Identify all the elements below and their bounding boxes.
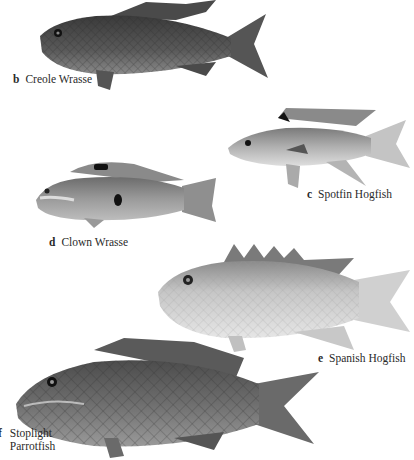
caption-letter: d (49, 236, 55, 248)
caption-name-line2: Parrotfish (10, 440, 55, 452)
caption-creole-wrasse: bCreole Wrasse (13, 73, 92, 86)
caption-name: StoplightParrotfish (10, 427, 70, 453)
caption-name: Creole Wrasse (25, 73, 92, 85)
field-guide-plate: bCreole Wrasse cSpotfin Hogfish (0, 0, 414, 460)
caption-name: Clown Wrasse (61, 236, 128, 248)
caption-spanish-hogfish: eSpanish Hogfish (318, 352, 405, 365)
caption-name: Spotfin Hogfish (318, 188, 392, 200)
spotfin-hogfish-illustration (226, 104, 412, 190)
caption-name: Spanish Hogfish (329, 352, 405, 364)
caption-letter: b (13, 73, 19, 85)
clown-wrasse-illustration (34, 156, 218, 230)
caption-letter: f (0, 427, 2, 439)
caption-name-line1: Stoplight (10, 427, 52, 439)
caption-clown-wrasse: dClown Wrasse (49, 236, 128, 249)
caption-letter: c (307, 188, 312, 200)
caption-spotfin-hogfish: cSpotfin Hogfish (307, 188, 392, 201)
caption-stoplight-parrotfish: fStoplightParrotfish (0, 427, 70, 453)
